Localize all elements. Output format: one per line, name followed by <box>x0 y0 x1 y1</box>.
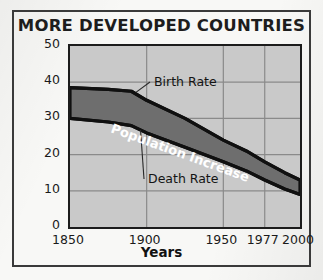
y-tick-label: 10 <box>32 181 60 196</box>
y-tick-label: 50 <box>32 36 60 51</box>
y-tick-label: 0 <box>32 217 60 232</box>
plot-area: Birth Rate Death Rate Population Increas… <box>68 44 302 229</box>
x-axis-label: Years <box>12 244 311 260</box>
y-tick-label: 20 <box>32 145 60 160</box>
chart-title: MORE DEVELOPED COUNTRIES <box>12 16 311 35</box>
plot-svg: Birth Rate Death Rate Population Increas… <box>70 46 300 227</box>
birth-rate-annotation: Birth Rate <box>154 74 217 89</box>
y-tick-label: 40 <box>32 72 60 87</box>
death-rate-annotation: Death Rate <box>148 171 219 186</box>
chart-figure: MORE DEVELOPED COUNTRIES Per 1,000 Popul… <box>0 0 323 280</box>
birth-rate-leader-line <box>136 82 150 92</box>
y-tick-label: 30 <box>32 108 60 123</box>
